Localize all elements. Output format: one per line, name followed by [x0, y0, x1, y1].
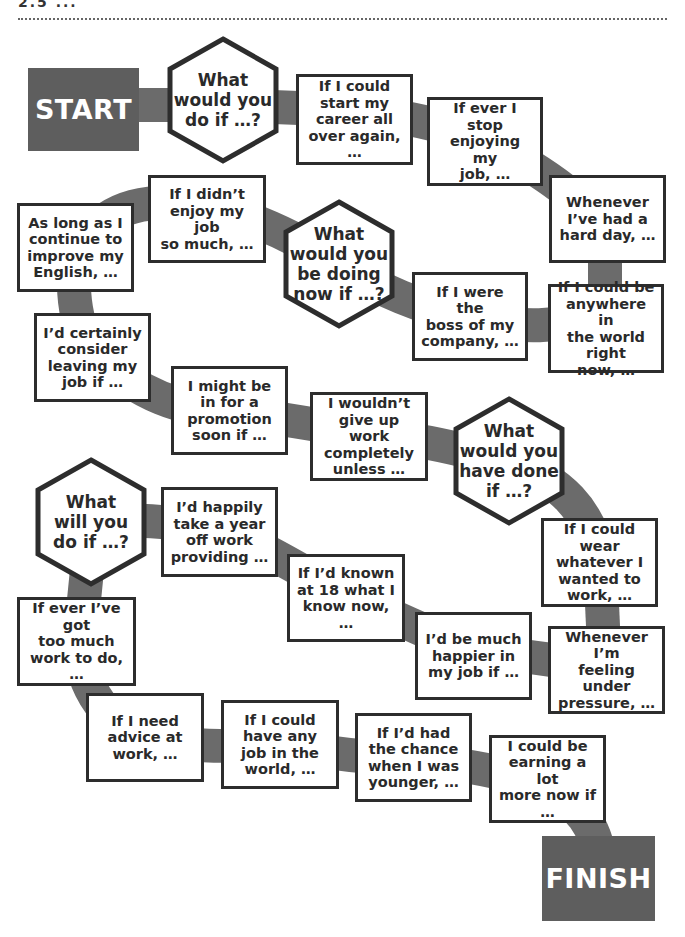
prompt-card: Whenever I’ve had a hard day, … [549, 175, 666, 263]
prompt-card: I could be earning a lot more now if … [489, 735, 606, 823]
hexagon-label: What would you do if …? [166, 36, 280, 164]
prompt-card: I’d happily take a year off work providi… [161, 487, 278, 577]
prompt-card: If I’d known at 18 what I know now, … [287, 554, 405, 642]
hexagon-label: What would you have done if …? [452, 396, 566, 526]
prompt-card: If I could start my career all over agai… [296, 74, 413, 165]
finish-tile: FINISH [542, 836, 655, 921]
prompt-card: If ever I’ve got too much work to do, … [17, 597, 136, 686]
question-hexagon-4: What will you do if …? [34, 457, 148, 587]
prompt-card: I might be in for a promotion soon if … [171, 366, 288, 455]
hexagon-label: What would you be doing now if …? [282, 199, 396, 329]
finish-label: FINISH [545, 863, 651, 894]
hexagon-label: What will you do if …? [34, 457, 148, 587]
question-hexagon-2: What would you be doing now if …? [282, 199, 396, 329]
question-hexagon-1: What would you do if …? [166, 36, 280, 164]
prompt-card: If I were the boss of my company, … [412, 272, 528, 361]
prompt-card: If I need advice at work, … [86, 693, 204, 782]
prompt-card: If ever I stop enjoying my job, … [427, 97, 543, 186]
question-hexagon-3: What would you have done if …? [452, 396, 566, 526]
prompt-card: If I could have any job in the world, … [221, 700, 339, 789]
prompt-card: If I’d had the chance when I was younger… [355, 713, 472, 802]
prompt-card: Whenever I’m feeling under pressure, … [548, 626, 665, 714]
start-tile: START [28, 68, 139, 151]
prompt-card: If I didn’t enjoy my job so much, … [148, 175, 266, 263]
prompt-card: I’d certainly consider leaving my job if… [34, 313, 151, 402]
prompt-card: I wouldn’t give up work completely unles… [310, 392, 428, 481]
prompt-card: If I could wear whatever I wanted to wor… [541, 518, 658, 607]
prompt-card: If I could be anywhere in the world righ… [548, 284, 664, 373]
prompt-card: As long as I continue to improve my Engl… [17, 203, 134, 292]
prompt-card: I’d be much happier in my job if … [415, 612, 532, 700]
start-label: START [35, 94, 132, 125]
